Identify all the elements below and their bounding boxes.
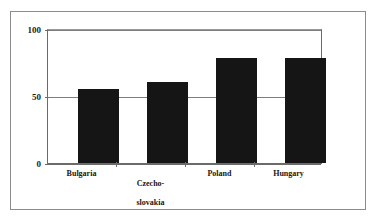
- ytick-mark-100: [45, 30, 49, 31]
- figure-border: 100 50 0 Bulgaria Czecho- slov: [10, 11, 366, 210]
- xcat-label-czechoslovakia: Czecho- slovakia: [116, 169, 185, 217]
- bar-bulgaria[interactable]: [78, 89, 119, 163]
- ytick-mark-50: [45, 97, 49, 98]
- ytick-label-0: 0: [37, 160, 42, 169]
- ytick-label-50: 50: [32, 93, 41, 102]
- xcat-label-poland: Poland: [185, 169, 254, 179]
- xtick-3: [254, 162, 255, 167]
- ytick-mark-0: [45, 164, 49, 165]
- gridline-100: 100: [48, 30, 321, 31]
- xcat-label-czechoslovakia-line1: Czecho-: [116, 179, 185, 189]
- xtick-2: [185, 162, 186, 167]
- ytick-label-100: 100: [28, 26, 42, 35]
- bar-czechoslovakia[interactable]: [147, 82, 188, 163]
- xcat-label-czechoslovakia-line2: slovakia: [116, 198, 185, 208]
- xcat-label-bulgaria: Bulgaria: [47, 169, 116, 179]
- plot-area: 100 50 0: [47, 29, 322, 164]
- bar-poland[interactable]: [216, 58, 257, 163]
- xtick-1: [116, 162, 117, 167]
- xcat-label-hungary: Hungary: [254, 169, 323, 179]
- chart-figure: 100 50 0 Bulgaria Czecho- slov: [0, 0, 380, 223]
- bar-hungary[interactable]: [285, 58, 326, 163]
